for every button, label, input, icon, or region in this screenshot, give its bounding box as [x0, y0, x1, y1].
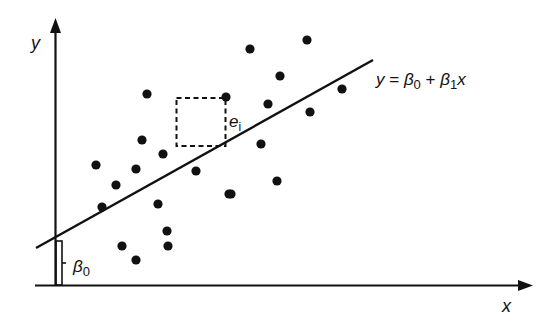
residual-label: ei [229, 112, 241, 134]
intercept-bracket [56, 241, 66, 285]
data-point [272, 176, 281, 185]
data-point [91, 160, 100, 169]
data-point [97, 202, 106, 211]
data-point [117, 241, 126, 250]
data-point [142, 89, 151, 98]
y-axis-arrow-icon [50, 18, 61, 33]
data-point [131, 164, 140, 173]
regression-diagram: y x β0 ei y = β0 + β1x [0, 0, 558, 330]
data-point [245, 44, 254, 53]
data-point [263, 99, 272, 108]
residual-square [177, 98, 226, 146]
regression-equation: y = β0 + β1x [375, 70, 466, 92]
data-point [275, 71, 284, 80]
data-point [137, 135, 146, 144]
data-point [226, 189, 235, 198]
data-point [131, 255, 140, 264]
data-points [91, 35, 346, 264]
data-point [158, 149, 167, 158]
y-axis-label: y [29, 33, 41, 53]
data-point [162, 226, 171, 235]
data-point [163, 241, 172, 250]
x-axis-label: x [501, 296, 512, 316]
x-axis-arrow-icon [518, 280, 533, 291]
data-point [221, 92, 230, 101]
data-point [305, 107, 314, 116]
data-point [191, 166, 200, 175]
data-point [337, 84, 346, 93]
regression-line [36, 60, 373, 248]
data-point [302, 35, 311, 44]
data-point [111, 180, 120, 189]
intercept-label: β0 [72, 257, 90, 279]
x-axis [35, 280, 533, 291]
data-point [256, 139, 265, 148]
data-point [153, 199, 162, 208]
